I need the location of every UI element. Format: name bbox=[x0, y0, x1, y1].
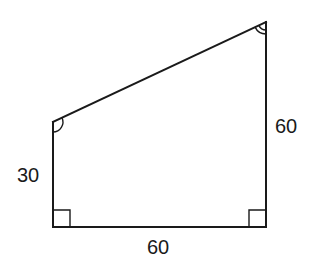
angle-arc-top-right-inner bbox=[259, 25, 266, 30]
right-angle-mark-bottom-left bbox=[53, 210, 70, 227]
top-slanted-side bbox=[53, 22, 266, 122]
trapezoid-diagram: 30 60 60 bbox=[0, 0, 309, 268]
right-angle-mark-bottom-right bbox=[249, 210, 266, 227]
bottom-side-label: 60 bbox=[147, 236, 169, 258]
left-side-label: 30 bbox=[17, 164, 39, 186]
right-side-label: 60 bbox=[275, 115, 297, 137]
